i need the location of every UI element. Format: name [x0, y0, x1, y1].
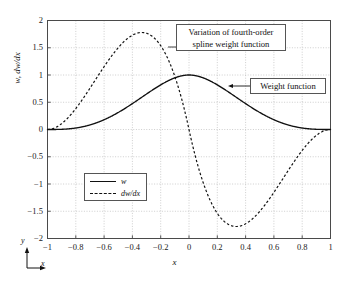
callout-leader-lines: [168, 47, 250, 88]
legend-swatch-dashed: [90, 193, 116, 194]
legend-swatch-solid: [90, 181, 116, 182]
x-tick-label: 0.4: [232, 243, 260, 252]
x-axis-title: x: [0, 258, 349, 267]
legend-item-dwdx: dw/dx: [85, 187, 146, 200]
y-tick-label: 0: [20, 125, 43, 134]
y-tick-label: 0.5: [20, 98, 43, 107]
x-tick-label: −1: [34, 243, 62, 252]
x-tick-label: −0.4: [118, 243, 146, 252]
y-tick-label: −1.5: [20, 207, 43, 216]
x-tick-label: 0: [175, 243, 203, 252]
title-callout: Variation of fourth-order spline weight …: [176, 24, 286, 51]
plot-canvas: [0, 0, 349, 281]
x-tick-label: 0.8: [288, 243, 316, 252]
x-tick-label: 0.2: [203, 243, 231, 252]
y-tick-label: 1: [20, 71, 43, 80]
title-callout-line1: Variation of fourth-order: [189, 27, 274, 37]
y-tick-label: 2: [20, 16, 43, 25]
legend-label-w: w: [121, 176, 126, 187]
axis-indicator-y-label: y: [21, 237, 25, 245]
title-callout-line2: spline weight function: [193, 39, 270, 49]
y-tick-label: 1.5: [20, 43, 43, 52]
y-tick-label: −0.5: [20, 152, 43, 161]
x-tick-label: −0.8: [62, 243, 90, 252]
axis-indicator-x-label: x: [41, 260, 45, 268]
weight-function-callout: Weight function: [250, 78, 326, 94]
x-tick-label: 0.6: [260, 243, 288, 252]
y-tick-label: −1: [20, 180, 43, 189]
x-tick-label: −0.2: [147, 243, 175, 252]
chart-figure: 21.510.50−0.5−1−1.5−2 −1−0.8−0.6−0.4−0.2…: [0, 0, 349, 281]
legend: w dw/dx: [84, 173, 147, 201]
legend-label-dwdx: dw/dx: [121, 188, 140, 199]
y-axis-title: w, dw/dx: [13, 33, 22, 103]
x-tick-label: 1: [317, 243, 345, 252]
x-tick-label: −0.6: [90, 243, 118, 252]
